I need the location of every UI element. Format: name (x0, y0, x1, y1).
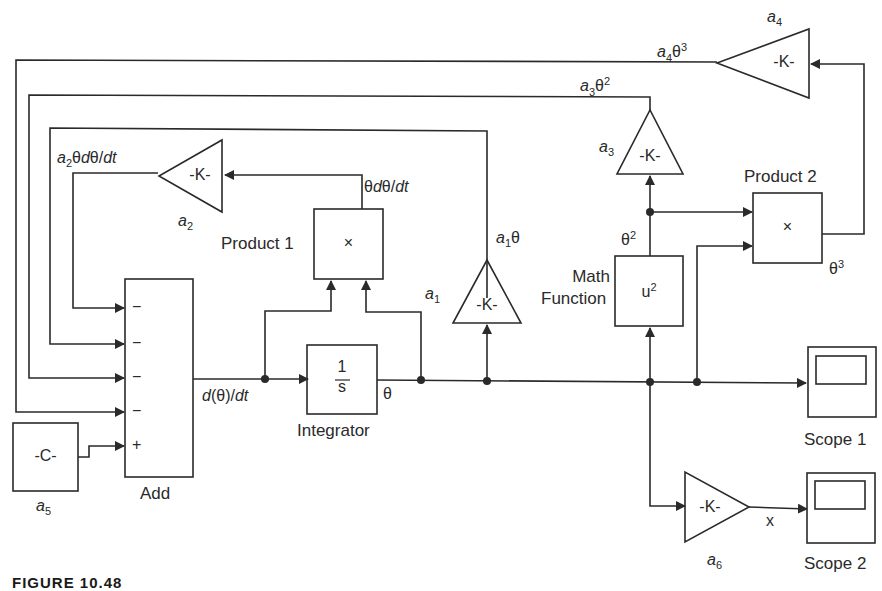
scope2-label: Scope 2 (804, 555, 866, 573)
gain-a2-param: a2 (178, 212, 193, 235)
figure-caption: FIGURE 10.48 (12, 574, 122, 591)
integrator-transfer-function: 1s (307, 357, 377, 397)
add-block-label: Add (140, 485, 170, 503)
gain-a1-symbol: -K- (463, 296, 511, 314)
gain-a1-param: a1 (425, 285, 440, 308)
gain-a6-symbol: -K- (688, 498, 732, 516)
gain-a3-symbol: -K- (628, 147, 672, 165)
signal-a1-theta: a1θ (496, 229, 520, 252)
scope1-label: Scope 1 (804, 431, 866, 449)
gain-a3-param: a3 (599, 138, 614, 161)
constant-symbol: -C- (13, 447, 78, 465)
product2-symbol: × (753, 218, 822, 236)
signal-theta-dtheta-dt: θdθ/dt (364, 178, 409, 196)
wire-theta-to-product2 (697, 246, 752, 382)
signal-theta-squared: θ2 (621, 226, 636, 249)
gain-a4-param: a4 (767, 8, 782, 31)
constant-param-label: a5 (36, 497, 51, 520)
math-function-symbol: u2 (615, 281, 683, 301)
wire-a2-feedback (73, 173, 158, 308)
gain-a2-symbol: -K- (180, 166, 220, 184)
add-port-1-sign: − (132, 298, 141, 316)
product2-label: Product 2 (744, 168, 817, 186)
signal-a2-term: a2θdθ/dt (57, 149, 117, 172)
gain-a4-symbol: -K- (762, 53, 806, 71)
signal-x: x (766, 512, 774, 530)
signal-theta: θ (383, 385, 392, 403)
signal-a4-term: a4θ3 (657, 38, 687, 67)
wire-theta-to-scope1 (377, 380, 806, 383)
gain-a6-param: a6 (707, 551, 722, 574)
wire-constant-to-add (78, 446, 124, 457)
wire-a6-to-scope2 (749, 507, 807, 509)
math-function-label-line1: Math (570, 268, 610, 286)
integrator-label: Integrator (297, 422, 370, 440)
add-port-5-sign: + (132, 436, 141, 454)
signal-dtheta-dt: d(θ)/dt (202, 387, 248, 405)
wire-theta-to-a6 (650, 382, 685, 506)
signal-a3-term: a3θ2 (580, 72, 610, 101)
add-port-3-sign: − (132, 368, 141, 386)
product1-label: Product 1 (221, 235, 294, 253)
math-function-label-line2: Function (541, 290, 606, 308)
wire-product2-to-a4 (811, 64, 864, 234)
product1-symbol: × (314, 234, 383, 252)
add-port-4-sign: − (132, 402, 141, 420)
wire-product1-to-a2 (225, 175, 362, 209)
signal-theta-cubed: θ3 (829, 255, 844, 278)
add-port-2-sign: − (132, 334, 141, 352)
